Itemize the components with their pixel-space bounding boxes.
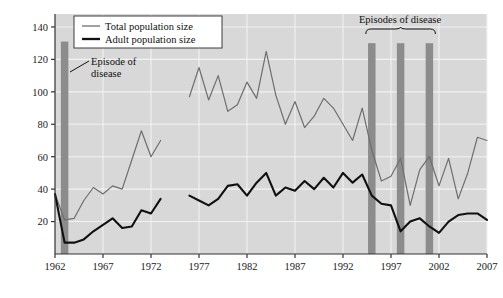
y-tick-label: 100	[32, 87, 48, 98]
x-tick-label: 2007	[477, 261, 498, 272]
plot-area-background	[55, 14, 487, 254]
episode-annotation-line2: disease	[91, 68, 122, 79]
y-tick-label: 20	[38, 216, 49, 227]
x-tick-label: 1992	[333, 261, 354, 272]
legend-label-adult: Adult population size	[105, 34, 196, 45]
population-chart-figure: 20406080100120140 1962196719721977198219…	[0, 0, 503, 298]
x-tick-label: 1997	[381, 261, 402, 272]
chart-canvas: 20406080100120140 1962196719721977198219…	[0, 0, 503, 298]
episodes-annotation-label: Episodes of disease	[359, 14, 442, 25]
x-tick-label: 1982	[237, 261, 258, 272]
x-tick-label: 1977	[189, 261, 210, 272]
y-tick-label: 60	[38, 152, 49, 163]
y-tick-label: 140	[32, 22, 48, 33]
x-tick-label: 1987	[285, 261, 306, 272]
x-tick-label: 1967	[93, 261, 114, 272]
x-tick-label: 1972	[141, 261, 162, 272]
episode-annotation-line1: Episode of	[91, 56, 137, 67]
x-tick-label: 2002	[429, 261, 450, 272]
legend-label-total: Total population size	[105, 21, 193, 32]
y-tick-label: 80	[38, 119, 49, 130]
y-tick-label: 120	[32, 54, 48, 65]
legend[interactable]: Total population size Adult population s…	[74, 16, 222, 48]
x-tick-label: 1962	[45, 261, 66, 272]
y-tick-label: 40	[38, 184, 49, 195]
